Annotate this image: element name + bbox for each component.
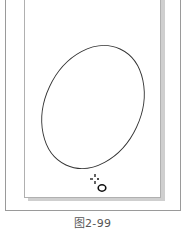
- drawing-canvas: [0, 0, 185, 232]
- drawn-ellipse[interactable]: [22, 29, 163, 186]
- figure-caption: 图2-99: [0, 214, 185, 230]
- ellipse-tool-cursor-icon: [90, 174, 106, 191]
